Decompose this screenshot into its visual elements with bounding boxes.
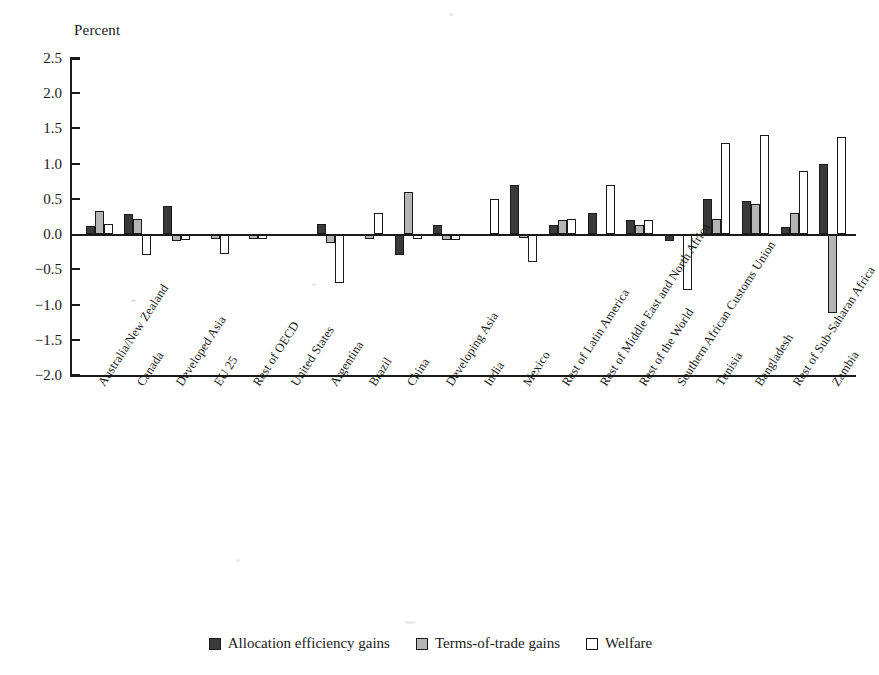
bar <box>528 234 537 262</box>
bar <box>626 220 635 234</box>
y-tick-label: 0.5 <box>14 190 62 207</box>
chart-legend: Allocation efficiency gainsTerms-of-trad… <box>0 635 861 652</box>
bar <box>374 213 383 234</box>
bar <box>742 201 751 234</box>
bar <box>510 185 519 234</box>
y-tick-label: 2.5 <box>14 50 62 67</box>
bar <box>721 143 730 235</box>
bar <box>395 234 404 255</box>
y-tick-label: 1.0 <box>14 155 62 172</box>
bar <box>124 214 133 234</box>
bar <box>558 220 567 234</box>
bar <box>799 171 808 234</box>
plot-area <box>70 58 856 375</box>
y-tick-label: 2.0 <box>14 85 62 102</box>
bar <box>142 234 151 255</box>
bar <box>588 213 597 234</box>
bar <box>567 219 576 234</box>
y-tick-label: −2.0 <box>14 367 62 384</box>
bar <box>606 185 615 234</box>
legend-item[interactable]: Terms-of-trade gains <box>416 635 560 652</box>
legend-label: Allocation efficiency gains <box>228 635 390 652</box>
bar <box>490 199 499 234</box>
y-axis-top-cap <box>70 58 80 60</box>
bar <box>790 213 799 234</box>
legend-swatch-icon <box>416 638 428 650</box>
legend-swatch-icon <box>209 638 221 650</box>
x-axis-bottom-line <box>70 375 856 377</box>
legend-item[interactable]: Welfare <box>586 635 652 652</box>
bar <box>95 211 104 234</box>
bar <box>104 224 113 234</box>
bar <box>760 135 769 234</box>
bar <box>133 219 142 234</box>
legend-swatch-icon <box>586 638 598 650</box>
bar <box>635 225 644 234</box>
y-tick-label: −1.0 <box>14 296 62 313</box>
bar <box>163 206 172 234</box>
bar <box>751 204 760 234</box>
bar <box>220 234 229 254</box>
zero-line <box>70 234 856 236</box>
legend-item[interactable]: Allocation efficiency gains <box>209 635 390 652</box>
bar <box>549 225 558 234</box>
y-axis-line <box>70 58 72 377</box>
y-tick-label: −0.5 <box>14 261 62 278</box>
bar <box>828 234 837 313</box>
y-tick-label: 0.0 <box>14 226 62 243</box>
bar <box>644 220 653 234</box>
bar <box>317 224 326 235</box>
legend-label: Terms-of-trade gains <box>435 635 560 652</box>
legend-label: Welfare <box>605 635 652 652</box>
bar <box>335 234 344 283</box>
bar <box>781 227 790 234</box>
bar <box>433 225 442 234</box>
y-tick-label: 1.5 <box>14 120 62 137</box>
y-axis-title: Percent <box>74 22 120 39</box>
bar <box>712 219 721 234</box>
bar <box>86 226 95 234</box>
bar <box>837 137 846 234</box>
bar <box>819 164 828 234</box>
bar <box>404 192 413 234</box>
y-tick-label: −1.5 <box>14 331 62 348</box>
